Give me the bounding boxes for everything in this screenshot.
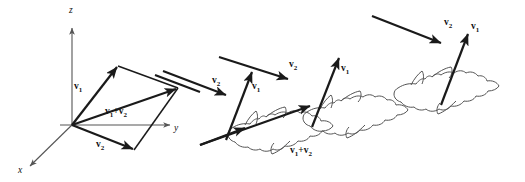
parallelogram-outline [118,66,178,150]
v2-subscript: 2 [449,22,453,30]
v1-plus-v2-arrow-planes-secondary [200,128,245,145]
v1-arrow-plane-middle [312,58,339,127]
sum-b-subscript: 2 [308,150,312,158]
y-axis-label: y [174,124,178,134]
plane-v2-upper-middle-label: v2 [289,60,297,72]
airplane-outline-middle [303,91,408,138]
vector-addition-figure: z y x v1 v2 v1+v2 v2 v2 v2 v1 v1 v1 v1+v… [0,0,525,182]
v1-subscript: 1 [476,26,480,34]
sum-b-subscript: 2 [123,111,127,119]
v2-arrow-right [372,16,441,43]
z-axis-label: z [69,6,73,16]
plane-v1-right-label: v1 [471,22,479,34]
parallelogram-sum-label: v1+v2 [105,107,127,119]
plane-v1-left-label: v1 [252,82,260,94]
v1-subscript: 1 [257,86,261,94]
v1-arrow-plane-right [441,34,468,105]
v2-subscript: 2 [101,144,105,152]
x-axis-label: x [18,166,22,176]
x-axis [30,121,76,166]
v1-subscript: 1 [79,86,83,94]
v2-subscript: 2 [217,80,221,88]
plane-sum-label: v1+v2 [290,146,312,158]
v2-subscript: 2 [294,64,298,72]
plane-v1-middle-label: v1 [341,64,349,76]
plane-v2-lower-middle-label: v2 [212,76,220,88]
v2-arrow-upper-middle [219,57,288,79]
parallelogram-edge-right [134,88,178,150]
parallelogram-v2-label: v2 [96,140,104,152]
parallelogram-v1-label: v1 [74,82,82,94]
parallelogram-edge-top [118,66,178,88]
v1-subscript: 1 [346,68,350,76]
plane-v2-right-label: v2 [444,18,452,30]
